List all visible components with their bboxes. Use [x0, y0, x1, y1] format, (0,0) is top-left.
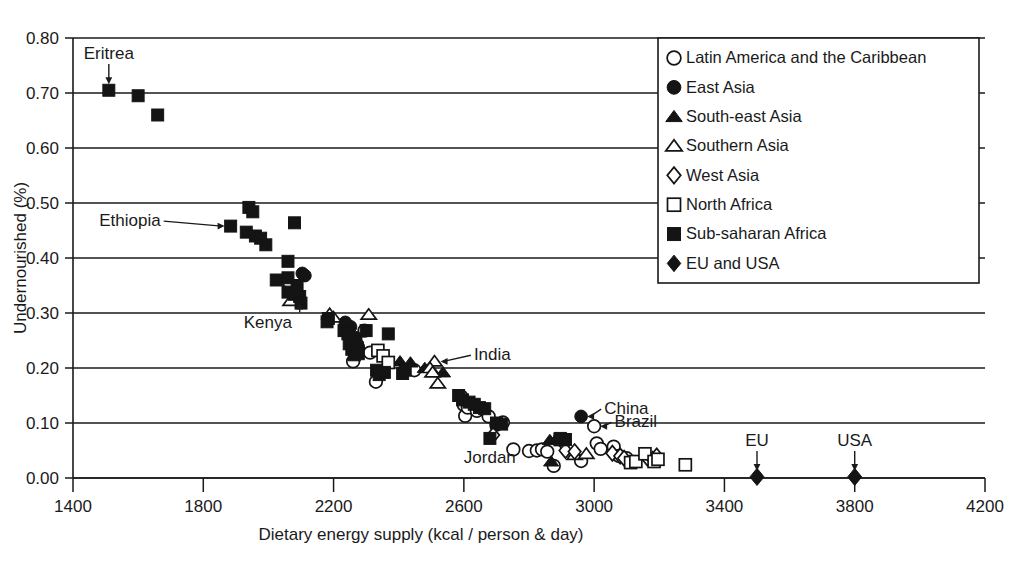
data-point	[588, 420, 601, 433]
annotation-eu: EU	[745, 431, 769, 471]
data-point	[321, 316, 333, 328]
y-tick-label: 0.80	[26, 29, 59, 48]
scatter-chart-figure: 0.000.100.200.300.400.500.600.700.80 140…	[0, 0, 1023, 573]
annotation-label: Brazil	[615, 412, 658, 431]
leader-arrowhead	[218, 223, 225, 230]
x-tick-label: 3800	[836, 497, 874, 516]
y-tick-label: 0.00	[26, 469, 59, 488]
legend-box	[658, 38, 979, 283]
leader-line	[444, 355, 471, 361]
data-point	[575, 410, 588, 423]
data-point	[560, 434, 572, 446]
data-point	[291, 280, 303, 292]
annotation-label: Kenya	[244, 313, 293, 332]
x-tick-label: 1800	[184, 497, 222, 516]
legend-item-label: Latin America and the Caribbean	[686, 48, 926, 66]
data-point	[282, 255, 294, 267]
annotation-label: Eritrea	[84, 44, 135, 63]
data-point	[225, 220, 237, 232]
legend-group[interactable]: Latin America and the CaribbeanEast Asia…	[658, 38, 979, 283]
leader-arrowhead	[851, 464, 858, 471]
annotation-label: India	[474, 345, 511, 364]
data-point	[496, 418, 508, 430]
leader-arrowhead	[105, 77, 112, 84]
legend-marker-circle-filled	[667, 80, 681, 94]
data-point	[361, 309, 376, 319]
legend-item-label: EU and USA	[686, 254, 780, 272]
annotation-label: Ethiopia	[99, 211, 161, 230]
x-tick-label: 2600	[445, 497, 483, 516]
data-point	[352, 348, 364, 360]
data-point	[652, 453, 664, 465]
legend-marker-square-filled	[668, 228, 681, 241]
data-point	[579, 448, 594, 458]
data-point	[679, 459, 691, 471]
x-tick-labels-group: 14001800220026003000340038004200	[54, 497, 1004, 516]
legend-item-label: East Asia	[686, 78, 756, 96]
data-point	[132, 90, 144, 102]
data-point	[152, 109, 164, 121]
data-point	[360, 325, 372, 337]
data-point	[270, 274, 282, 286]
series-west-asia	[283, 277, 663, 467]
y-tick-labels-group: 0.000.100.200.300.400.500.600.700.80	[26, 29, 59, 488]
series-sub-saharan-africa	[103, 84, 572, 445]
y-tick-label: 0.60	[26, 139, 59, 158]
legend-marker-circle-open	[667, 51, 681, 65]
x-tick-marks-group	[73, 478, 985, 492]
y-tick-label: 0.10	[26, 414, 59, 433]
data-point	[260, 239, 272, 251]
data-point	[399, 364, 411, 376]
legend-item-sub-saharan-africa[interactable]: Sub-saharan Africa	[668, 224, 828, 242]
annotation-ethiopia: Ethiopia	[99, 211, 224, 230]
annotation-label: Jordan	[464, 448, 516, 467]
y-tick-marks-group	[65, 38, 73, 478]
series-east-asia	[296, 267, 587, 423]
leader-arrowhead	[754, 464, 761, 471]
legend-item-south-east-asia[interactable]: South-east Asia	[666, 107, 803, 125]
data-point	[479, 403, 491, 415]
legend-item-label: West Asia	[686, 166, 760, 184]
legend-item-label: Sub-saharan Africa	[686, 224, 827, 242]
chart-canvas: 0.000.100.200.300.400.500.600.700.80 140…	[0, 0, 1023, 573]
data-point	[382, 328, 394, 340]
data-point	[289, 217, 301, 229]
x-tick-label: 4200	[966, 497, 1004, 516]
annotation-eritrea: Eritrea	[84, 44, 135, 84]
legend-item-label: Southern Asia	[686, 136, 790, 154]
y-axis-title: Undernourished (%)	[11, 182, 30, 334]
data-point	[103, 84, 115, 96]
legend-marker-square-open	[668, 198, 681, 211]
x-tick-label: 1400	[54, 497, 92, 516]
y-tick-label: 0.70	[26, 84, 59, 103]
data-point	[484, 432, 496, 444]
annotation-label: USA	[837, 431, 873, 450]
leader-arrowhead	[600, 423, 607, 430]
x-tick-label: 2200	[315, 497, 353, 516]
annotation-usa: USA	[837, 431, 873, 471]
legend-item-label: South-east Asia	[686, 107, 802, 125]
data-point	[247, 206, 259, 218]
leader-arrowhead	[587, 413, 594, 420]
y-tick-label: 0.50	[26, 194, 59, 213]
legend-item-label: North Africa	[686, 195, 773, 213]
annotation-india: India	[441, 345, 512, 365]
annotation-jordan: Jordan	[464, 448, 516, 467]
y-tick-label: 0.30	[26, 304, 59, 323]
x-tick-label: 3400	[706, 497, 744, 516]
data-point	[430, 378, 445, 388]
data-point	[378, 366, 390, 378]
x-axis-title: Dietary energy supply (kcal / person & d…	[258, 525, 583, 544]
series-eu-and-usa	[750, 468, 862, 485]
x-tick-label: 3000	[575, 497, 613, 516]
leader-line	[164, 221, 222, 226]
legend-item-latin-america-and-the-caribbean[interactable]: Latin America and the Caribbean	[667, 48, 926, 66]
y-tick-label: 0.40	[26, 249, 59, 268]
y-tick-label: 0.20	[26, 359, 59, 378]
annotation-kenya: Kenya	[244, 303, 303, 333]
annotation-label: EU	[745, 431, 769, 450]
